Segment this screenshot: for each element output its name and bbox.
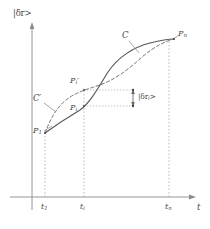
point-label-pn-sub: n bbox=[183, 32, 187, 38]
point-label-p1: P1 bbox=[33, 127, 42, 136]
leader-line-c-prime bbox=[44, 103, 56, 112]
trajectory-curve-c-prime bbox=[45, 39, 174, 133]
point-label-pi-prime: Pi′ bbox=[70, 77, 79, 86]
point-label-pi-sub: i bbox=[75, 106, 77, 112]
point-label-pi-prime-mark: ′ bbox=[77, 76, 79, 85]
leader-lines-group bbox=[44, 36, 178, 131]
marker-pi-prime bbox=[83, 89, 85, 91]
tick-label-ti: ti bbox=[80, 203, 85, 212]
marker-pn bbox=[173, 38, 175, 40]
curve-label-c-prime-mark: ′ bbox=[40, 93, 42, 103]
y-axis-arrowhead bbox=[30, 22, 35, 29]
point-label-pn: Pn bbox=[178, 30, 187, 39]
x-axis-arrowhead bbox=[189, 195, 196, 200]
curve-label-c-prime: C′ bbox=[33, 94, 41, 103]
marker-pi bbox=[83, 105, 85, 107]
curve-label-c: C bbox=[122, 31, 129, 40]
tick-label-tn-sub: n bbox=[168, 205, 172, 211]
separation-endpoint-bottom-dot bbox=[132, 105, 134, 107]
tick-label-t1-sub: 1 bbox=[44, 205, 47, 211]
point-label-p1-sub: 1 bbox=[38, 129, 41, 135]
y-axis-label: |δr> bbox=[13, 9, 31, 18]
x-axis-label: t bbox=[197, 203, 200, 212]
axes-group bbox=[10, 22, 196, 210]
tick-label-t1: t1 bbox=[41, 203, 48, 212]
curve-label-c-base: C bbox=[122, 30, 129, 40]
separation-endpoint-top-dot bbox=[132, 89, 134, 91]
point-label-pi: Pi bbox=[70, 104, 77, 113]
tick-label-tn: tn bbox=[165, 203, 172, 212]
trajectory-curve-c bbox=[45, 39, 174, 133]
separation-label-close: > bbox=[149, 92, 155, 101]
separation-arrow-group bbox=[131, 89, 135, 107]
marker-p1 bbox=[44, 132, 46, 134]
separation-label: |δri> bbox=[138, 93, 156, 101]
tick-label-ti-sub: i bbox=[83, 205, 85, 211]
tick-droplines-group bbox=[45, 41, 169, 197]
figure-root: |δr> t t1 ti tn P1 Pi Pi′ Pn C C′ |δri> bbox=[0, 0, 210, 229]
separation-label-open: |δr bbox=[138, 92, 148, 101]
